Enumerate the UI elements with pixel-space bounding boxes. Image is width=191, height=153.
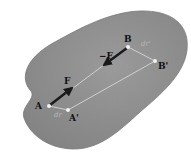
label-F: F bbox=[64, 76, 71, 86]
point-A-prime bbox=[66, 108, 70, 112]
label-minus-F: −F bbox=[99, 51, 114, 61]
label-B: B bbox=[124, 34, 132, 44]
label-dr-prime: dr' bbox=[141, 40, 151, 48]
label-A-prime: A' bbox=[68, 113, 79, 123]
label-A: A bbox=[34, 101, 43, 111]
label-dr: dr bbox=[54, 111, 62, 119]
point-B-prime bbox=[153, 59, 157, 63]
point-B bbox=[126, 45, 130, 49]
rigid-body-diagram: A A' B B' F −F dr dr' bbox=[0, 0, 191, 153]
label-B-prime: B' bbox=[158, 61, 168, 71]
point-A bbox=[47, 104, 51, 108]
rigid-body bbox=[23, 11, 187, 149]
